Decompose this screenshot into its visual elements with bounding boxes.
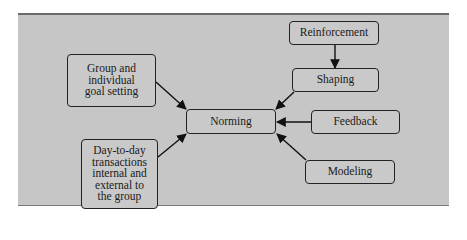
node-shaping: Shaping: [292, 68, 379, 92]
node-day-to-day-transactions: Day-to-day transactions internal and ext…: [81, 139, 158, 209]
edge-shaping-to-norming: [276, 92, 294, 109]
node-group-goal-setting: Group and individual goal setting: [67, 54, 156, 107]
edge-daytoday-to-norming: [158, 134, 186, 157]
edge-modeling-to-norming: [277, 134, 306, 160]
node-label: Feedback: [333, 116, 377, 128]
node-reinforcement: Reinforcement: [289, 21, 379, 45]
node-feedback: Feedback: [311, 110, 400, 134]
node-label: Reinforcement: [300, 27, 368, 39]
edge-group-to-norming: [156, 82, 186, 109]
node-norming: Norming: [186, 109, 276, 134]
node-line: goal setting: [85, 86, 138, 98]
node-label: Norming: [210, 116, 252, 128]
node-modeling: Modeling: [305, 160, 395, 184]
node-line: the group: [92, 191, 147, 203]
node-label: Shaping: [317, 74, 355, 86]
node-label: Modeling: [328, 166, 373, 178]
